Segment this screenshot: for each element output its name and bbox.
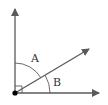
angle-diagram: A B	[0, 0, 108, 105]
angle-b-arc	[45, 75, 50, 93]
vertex-point	[12, 90, 17, 95]
diagonal-ray	[15, 49, 89, 93]
angle-b-label: B	[53, 76, 61, 89]
angle-a-label: A	[30, 52, 40, 65]
angle-a-arc	[15, 63, 41, 78]
